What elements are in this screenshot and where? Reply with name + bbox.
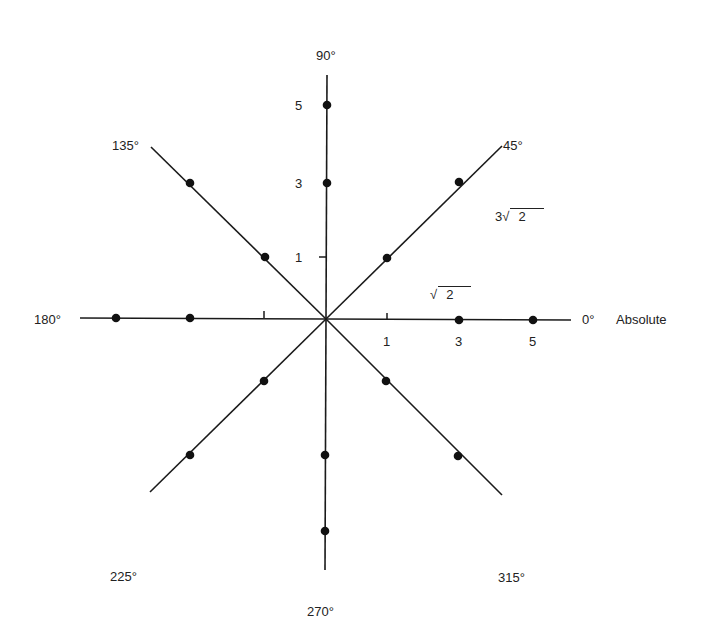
axis-lines	[80, 75, 571, 570]
data-point-315	[454, 452, 463, 461]
data-point-180	[112, 314, 121, 323]
data-point-90	[323, 101, 332, 110]
axis-line-135	[151, 147, 326, 319]
tick-label-y-1: 1	[295, 251, 302, 264]
data-point-0	[529, 316, 538, 325]
radical-label-root-2: √2	[430, 286, 471, 301]
axis-line-315	[326, 319, 502, 495]
axis-label-315: 315°	[498, 571, 525, 584]
data-point-135	[261, 253, 270, 262]
axis-label-180: 180°	[34, 313, 61, 326]
data-point-45	[383, 254, 392, 263]
axis-label-0: 0°	[582, 313, 594, 326]
data-point-315	[382, 377, 391, 386]
data-point-270	[321, 451, 330, 460]
data-point-180	[186, 314, 195, 323]
radical-sign-icon: √	[430, 287, 437, 302]
data-point-45	[455, 178, 464, 187]
axis-line-90	[326, 75, 327, 319]
tick-label-x-3: 3	[455, 335, 462, 348]
axis-label-225: 225°	[110, 570, 137, 583]
radical-label-3-root-2: 3√2	[495, 208, 544, 223]
data-point-135	[186, 179, 195, 188]
polar-diagram	[0, 0, 710, 628]
radicand: 2	[510, 208, 543, 223]
radicand: 2	[438, 286, 471, 301]
data-point-0	[455, 316, 464, 325]
tick-label-y-3: 3	[295, 177, 302, 190]
data-point-270	[321, 527, 330, 536]
absolute-label: Absolute	[616, 313, 667, 326]
axis-line-225	[150, 319, 326, 492]
data-point-225	[260, 377, 269, 386]
data-point-225	[186, 451, 195, 460]
tick-label-x-1: 1	[383, 335, 390, 348]
radical-sign-icon: √	[502, 209, 509, 224]
axis-label-90: 90°	[316, 49, 336, 62]
axis-label-270: 270°	[307, 605, 334, 618]
tick-label-y-5: 5	[295, 99, 302, 112]
axis-line-45	[326, 146, 502, 319]
data-point-90	[323, 179, 332, 188]
axis-label-135: 135°	[112, 139, 139, 152]
tick-label-x-5: 5	[529, 335, 536, 348]
axis-label-45: 45°	[503, 139, 523, 152]
